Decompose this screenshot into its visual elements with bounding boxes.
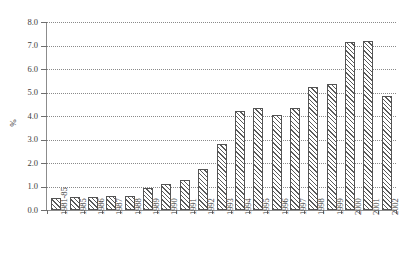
bar <box>308 87 318 210</box>
y-tick-label: 5.0 <box>0 88 38 97</box>
gridline <box>47 93 396 94</box>
gridline <box>47 22 396 23</box>
x-tick-label: 1999 <box>336 198 345 215</box>
y-tick-label: 3.0 <box>0 135 38 144</box>
x-tick-label: 1988 <box>134 198 143 215</box>
gridline <box>47 69 396 70</box>
bar <box>363 41 373 210</box>
x-tick-label: 1996 <box>281 198 290 215</box>
x-tick-label: 1987 <box>115 198 124 215</box>
x-tick-label: 1991 <box>189 198 198 215</box>
y-tick-label: 0.0 <box>0 206 38 215</box>
bar <box>235 111 245 210</box>
x-tick-label: 1994 <box>244 198 253 215</box>
bar <box>345 42 355 210</box>
y-tick-label: 2.0 <box>0 159 38 168</box>
x-tick-label: 1986 <box>97 198 106 215</box>
y-tick-label: 8.0 <box>0 18 38 27</box>
x-tick-label: 2000 <box>354 198 363 215</box>
x-tick-mark <box>47 210 48 214</box>
x-tick-label: 1989 <box>152 198 161 215</box>
x-tick-label: 1990 <box>170 198 179 215</box>
y-tick-label: 1.0 <box>0 182 38 191</box>
x-tick-label: 1981-85 <box>60 187 69 215</box>
plot-area <box>47 22 396 210</box>
y-tick-label: 6.0 <box>0 65 38 74</box>
y-tick-label: 4.0 <box>0 112 38 121</box>
x-tick-label: 1997 <box>299 198 308 215</box>
x-tick-label: 2001 <box>372 198 381 215</box>
y-tick-label: 7.0 <box>0 41 38 50</box>
bar <box>290 108 300 210</box>
bar <box>382 96 392 210</box>
bar-chart: % 8.07.06.05.04.03.02.01.00.0 1981-85198… <box>0 0 408 270</box>
bar <box>272 115 282 210</box>
gridline <box>47 46 396 47</box>
x-tick-label: 2002 <box>391 198 400 215</box>
gridline <box>47 140 396 141</box>
gridline <box>47 116 396 117</box>
x-tick-label: 1995 <box>262 198 271 215</box>
x-tick-label: 1985 <box>79 198 88 215</box>
bar <box>253 108 263 210</box>
x-tick-label: 1992 <box>207 198 216 215</box>
bar <box>327 84 337 210</box>
x-tick-label: 1998 <box>317 198 326 215</box>
x-tick-label: 1993 <box>226 198 235 215</box>
